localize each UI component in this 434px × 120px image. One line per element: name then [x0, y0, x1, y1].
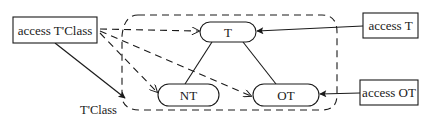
- node-access-ot-label: access OT: [362, 85, 416, 100]
- node-access-t-label: access T: [368, 18, 412, 33]
- arrow-to-tclass: [55, 43, 125, 98]
- node-access-t: access T: [363, 13, 418, 38]
- dashed-arrow-to-nt: [100, 33, 157, 92]
- arrow-access-ot-to-ot: [320, 93, 360, 94]
- node-nt-label: NT: [180, 88, 197, 103]
- node-access-ot: access OT: [360, 80, 418, 105]
- dashed-arrow-to-t: [100, 29, 199, 31]
- arrow-access-t-to-t: [257, 26, 363, 31]
- type-hierarchy-diagram: access T'Class access T access OT T NT O…: [0, 0, 434, 120]
- node-ot-label: OT: [277, 88, 294, 103]
- node-access-tclass-label: access T'Class: [18, 23, 93, 38]
- node-t: T: [200, 22, 256, 42]
- node-nt: NT: [158, 84, 219, 106]
- node-ot: OT: [253, 84, 319, 106]
- edge-t-ot: [243, 42, 276, 84]
- node-t-label: T: [224, 25, 232, 40]
- edge-t-nt: [185, 42, 212, 84]
- node-access-tclass: access T'Class: [13, 17, 97, 43]
- tclass-label: T'Class: [80, 103, 117, 117]
